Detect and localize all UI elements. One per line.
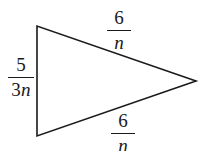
top-side-fraction-bar [107, 30, 131, 31]
bottom-side-denominator: n [111, 135, 135, 151]
left-side-denominator: 3n [8, 79, 34, 100]
top-side-denominator: n [107, 32, 131, 53]
label-left-side: 5 3n [8, 55, 34, 100]
geometry-figure: 5 3n 6 n 6 n [0, 0, 203, 151]
left-side-fraction-bar [8, 77, 34, 78]
left-side-numerator: 5 [8, 55, 34, 76]
left-side-denominator-coefficient: 3 [11, 79, 21, 100]
label-top-side: 6 n [107, 8, 131, 53]
top-side-numerator: 6 [107, 8, 131, 29]
bottom-side-denominator-variable: n [118, 135, 128, 151]
left-side-denominator-variable: n [21, 79, 31, 100]
top-side-denominator-variable: n [114, 32, 124, 53]
bottom-side-numerator: 6 [111, 111, 135, 132]
bottom-side-fraction-bar [111, 133, 135, 134]
label-bottom-side: 6 n [111, 111, 135, 151]
